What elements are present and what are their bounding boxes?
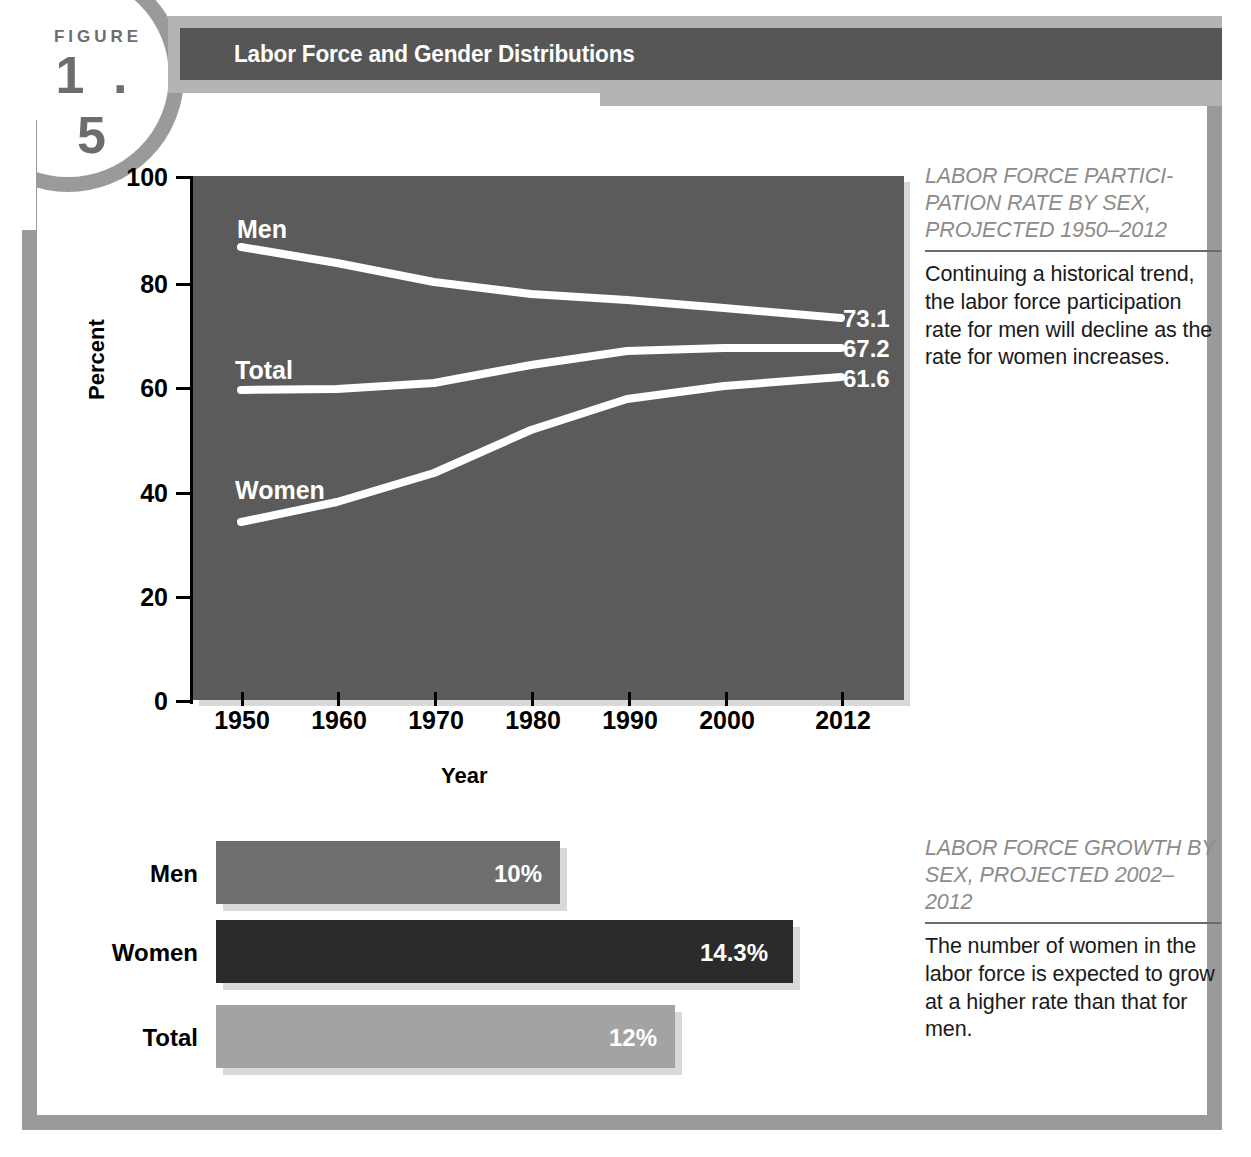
x-tick-label-1960: 1960 xyxy=(289,706,389,735)
caption-participation-body: Continuing a historical trend, the labor… xyxy=(925,261,1221,372)
frame-left-border xyxy=(22,120,37,1130)
bar-label-total: Total xyxy=(48,1024,198,1052)
bar-value-total: 12% xyxy=(609,1024,657,1052)
figure-title: Labor Force and Gender Distributions xyxy=(234,40,635,68)
caption-growth-body: The number of women in the labor force i… xyxy=(925,933,1221,1044)
y-tick-60 xyxy=(176,387,190,390)
frame-bottom-border xyxy=(22,1115,1222,1130)
y-tick-label-100: 100 xyxy=(108,163,168,192)
y-tick-100 xyxy=(176,176,190,179)
x-tick-label-1990: 1990 xyxy=(580,706,680,735)
end-label-women: 61.6 xyxy=(843,365,890,393)
y-axis-title: Percent xyxy=(84,319,110,400)
x-tick-label-1950: 1950 xyxy=(192,706,292,735)
caption-participation-title: LABOR FORCE PARTICI-PATION RATE BY SEX, … xyxy=(925,163,1221,244)
bar-label-women: Women xyxy=(48,939,198,967)
bar-label-men: Men xyxy=(48,860,198,888)
x-axis-title: Year xyxy=(441,763,488,789)
x-tick-label-2000: 2000 xyxy=(677,706,777,735)
line-series-men xyxy=(241,247,841,318)
x-tick-label-1980: 1980 xyxy=(483,706,583,735)
line-series-group xyxy=(193,176,904,700)
bar-total xyxy=(216,1005,675,1068)
end-label-men: 73.1 xyxy=(843,305,890,333)
y-tick-label-40: 40 xyxy=(108,479,168,508)
y-tick-label-20: 20 xyxy=(108,583,168,612)
caption-growth-rule xyxy=(925,922,1221,924)
caption-participation-rule xyxy=(925,250,1221,252)
y-tick-80 xyxy=(176,283,190,286)
figure-number: 1 . 5 xyxy=(30,45,160,165)
bar-value-men: 10% xyxy=(494,860,542,888)
series-label-total: Total xyxy=(235,356,293,385)
x-tick-label-1970: 1970 xyxy=(386,706,486,735)
y-tick-40 xyxy=(176,492,190,495)
caption-growth: LABOR FORCE GROWTH BY SEX, PROJECTED 200… xyxy=(925,835,1221,1044)
y-tick-label-0: 0 xyxy=(108,687,168,716)
caption-growth-title: LABOR FORCE GROWTH BY SEX, PROJECTED 200… xyxy=(925,835,1221,916)
y-tick-label-80: 80 xyxy=(108,270,168,299)
end-label-total: 67.2 xyxy=(843,335,890,363)
y-tick-20 xyxy=(176,596,190,599)
bar-value-women: 14.3% xyxy=(700,939,768,967)
series-label-men: Men xyxy=(237,215,287,244)
frame-top-accent xyxy=(600,92,1222,106)
caption-participation: LABOR FORCE PARTICI-PATION RATE BY SEX, … xyxy=(925,163,1221,372)
series-label-women: Women xyxy=(235,476,325,505)
y-tick-0 xyxy=(176,700,190,703)
x-tick-label-2012: 2012 xyxy=(793,706,893,735)
y-tick-label-60: 60 xyxy=(108,374,168,403)
figure-label: FIGURE xyxy=(38,27,158,47)
line-series-women xyxy=(241,377,841,522)
figure-page: FIGURE 1 . 5 Labor Force and Gender Dist… xyxy=(0,0,1251,1157)
